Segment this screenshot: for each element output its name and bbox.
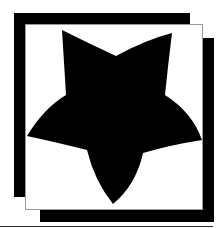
- star-icon: [0, 0, 222, 228]
- baseline-rule: [0, 226, 213, 227]
